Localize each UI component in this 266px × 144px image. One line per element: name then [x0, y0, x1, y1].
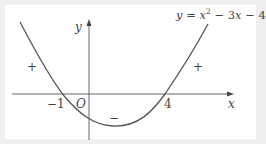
parabola-diagram: y x O −1 4 + − + y = x2 − 3x − 4	[0, 0, 266, 144]
equation-label: y = x2 − 3x − 4	[175, 7, 266, 22]
sign-right: +	[193, 60, 203, 74]
x-axis-label: x	[228, 97, 235, 111]
x-axis-arrow-icon	[227, 92, 234, 97]
sign-middle: −	[109, 111, 119, 125]
sign-left: +	[27, 60, 37, 74]
root-label-neg1: −1	[47, 97, 65, 111]
y-axis-label: y	[74, 20, 82, 34]
origin-label: O	[76, 97, 86, 111]
root-label-4: 4	[164, 97, 172, 111]
y-axis-arrow-icon	[87, 19, 92, 26]
